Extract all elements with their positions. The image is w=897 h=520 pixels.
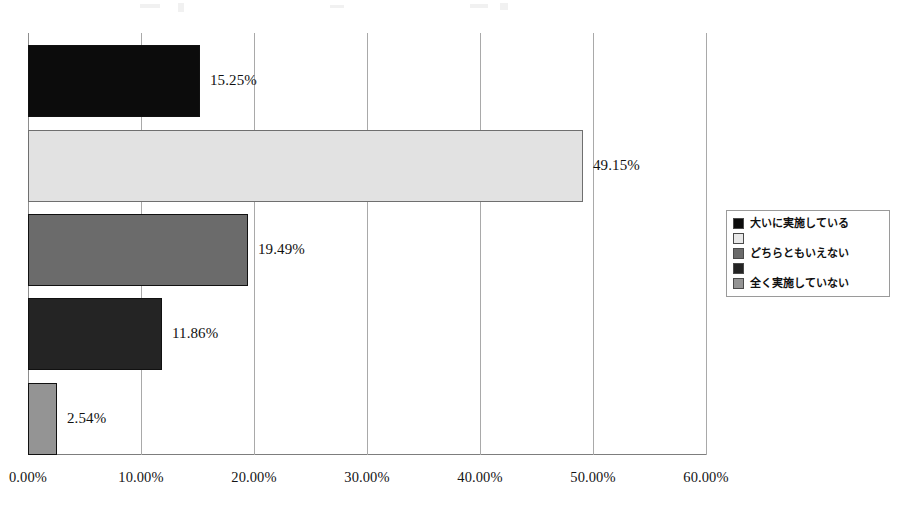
legend-swatch-icon (733, 278, 744, 289)
legend-item (733, 261, 884, 276)
plot-area (28, 33, 706, 455)
gridline (367, 33, 368, 455)
x-tick-label: 0.00% (9, 470, 47, 485)
scan-artifact (500, 3, 508, 10)
legend-label: 全く実施していない (750, 278, 849, 289)
data-label: 49.15% (593, 158, 640, 173)
bar (28, 45, 200, 117)
gridline (480, 33, 481, 455)
bar (28, 130, 583, 202)
legend-swatch-icon (733, 248, 744, 259)
x-tick-label: 20.00% (231, 470, 276, 485)
scan-artifact (470, 4, 488, 8)
bar (28, 383, 57, 455)
legend-label: どちらともいえない (750, 248, 849, 259)
bar (28, 298, 162, 370)
legend-swatch-icon (733, 233, 744, 244)
bar (28, 214, 248, 286)
gridline (593, 33, 594, 455)
legend-item: 大いに実施している (733, 216, 884, 231)
chart-legend: 大いに実施しているどちらともいえない全く実施していない (726, 210, 890, 297)
legend-swatch-icon (733, 263, 744, 274)
legend-item: 全く実施していない (733, 276, 884, 291)
x-tick-label: 50.00% (570, 470, 615, 485)
scan-artifact (330, 5, 344, 8)
scan-artifact (178, 3, 184, 12)
bar-chart: 15.25%49.15%19.49%11.86%2.54% 0.00%10.00… (0, 0, 897, 520)
legend-item (733, 231, 884, 246)
data-label: 15.25% (210, 73, 257, 88)
gridline (254, 33, 255, 455)
legend-label: 大いに実施している (750, 218, 849, 229)
data-label: 11.86% (172, 326, 218, 341)
data-label: 2.54% (67, 411, 106, 426)
x-tick-label: 10.00% (118, 470, 163, 485)
gridline (706, 33, 707, 455)
scan-artifact (140, 4, 160, 8)
x-tick-label: 30.00% (344, 470, 389, 485)
legend-swatch-icon (733, 218, 744, 229)
legend-item: どちらともいえない (733, 246, 884, 261)
x-tick-label: 40.00% (457, 470, 502, 485)
data-label: 19.49% (258, 242, 305, 257)
x-tick-label: 60.00% (683, 470, 728, 485)
